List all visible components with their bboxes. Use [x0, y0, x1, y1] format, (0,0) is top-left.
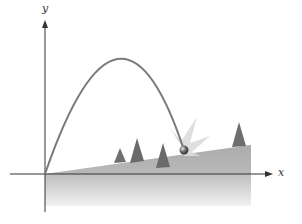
- tree-icon: [130, 138, 144, 163]
- y-axis-label: y: [42, 2, 48, 15]
- tree-icon: [156, 143, 170, 168]
- ball-icon: [180, 146, 189, 155]
- ground-region: [45, 145, 251, 206]
- x-axis-label: x: [278, 166, 284, 179]
- tree-icon: [114, 148, 126, 163]
- tree-icon: [232, 122, 246, 147]
- projectile-diagram: [0, 0, 302, 224]
